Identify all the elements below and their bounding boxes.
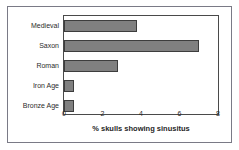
x-tick-label: 2 (101, 110, 105, 117)
category-label-iron-age: Iron Age (33, 79, 59, 93)
category-label-roman: Roman (36, 59, 59, 73)
bar-row: Roman (64, 56, 218, 76)
x-tick-label: 8 (216, 110, 220, 117)
bar-roman (64, 60, 118, 72)
bar-medieval (64, 20, 137, 32)
x-tick-label: 0 (62, 110, 66, 117)
category-label-bronze-age: Bronze Age (23, 99, 59, 113)
plot-area: Medieval Saxon Roman Iron Age Bronze Age (63, 15, 219, 115)
bar-iron-age (64, 80, 74, 92)
bar-row: Iron Age (64, 76, 218, 96)
x-tick-label: 6 (178, 110, 182, 117)
figure-container: Medieval Saxon Roman Iron Age Bronze Age… (7, 6, 232, 143)
bar-saxon (64, 40, 199, 52)
category-label-medieval: Medieval (31, 19, 59, 33)
bar-row: Saxon (64, 36, 218, 56)
category-label-saxon: Saxon (39, 39, 59, 53)
x-tick-label: 4 (139, 110, 143, 117)
bar-row: Medieval (64, 16, 218, 36)
x-axis-label: % skulls showing sinusitus (63, 124, 219, 133)
